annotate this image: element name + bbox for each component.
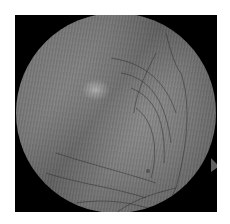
blood-vessels (16, 15, 216, 212)
image-frame (15, 15, 217, 212)
retina-fundus (16, 15, 216, 212)
